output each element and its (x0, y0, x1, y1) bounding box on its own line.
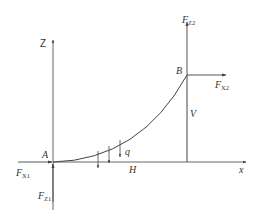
x-axis-label: x (238, 164, 244, 175)
force-fx1-subscript: X1 (22, 172, 30, 179)
force-fx1: FX1 (15, 162, 52, 179)
cable-diagram: Z x q A B FZ2 FX2 FX1 (0, 0, 255, 219)
vertical-span-label-v: V (190, 108, 198, 119)
svg-text:FZ2: FZ2 (181, 14, 195, 26)
distributed-load-arrows: q (98, 140, 130, 168)
svg-text:FX1: FX1 (15, 167, 30, 179)
point-b-label: B (176, 65, 182, 76)
horizontal-span-label-h: H (128, 164, 137, 175)
z-axis: Z (40, 38, 53, 210)
force-fz2-subscript: Z2 (188, 19, 195, 26)
svg-text:FZ1: FZ1 (37, 190, 51, 202)
force-fz1: FZ1 (37, 164, 53, 202)
load-label-q: q (125, 146, 130, 157)
force-fz2: FZ2 (181, 14, 195, 75)
x-axis: x (53, 162, 246, 175)
z-axis-label: Z (40, 38, 46, 49)
force-fx2-subscript: X2 (221, 84, 229, 91)
force-fx2: FX2 (187, 75, 229, 91)
force-fz1-subscript: Z1 (44, 195, 51, 202)
svg-text:FX2: FX2 (214, 79, 229, 91)
point-a-label: A (41, 149, 49, 160)
